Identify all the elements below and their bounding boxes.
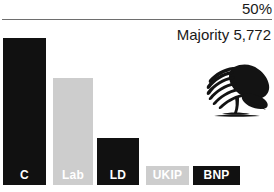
bar-group-lab[interactable]: Lab: [53, 78, 93, 185]
bar-label-c: C: [3, 166, 46, 185]
bar-label-bnp: BNP: [193, 166, 240, 185]
bar-c: [3, 38, 46, 185]
bar-label-ld: LD: [97, 166, 139, 185]
bars-area: C Lab LD UKIP BNP: [0, 0, 274, 192]
bar-group-bnp[interactable]: BNP: [193, 166, 240, 185]
bar-group-ld[interactable]: LD: [97, 138, 139, 185]
bar-group-ukip[interactable]: UKIP: [146, 166, 189, 185]
bar-label-ukip: UKIP: [146, 166, 189, 185]
bar-label-lab: Lab: [53, 166, 93, 185]
bar-group-c[interactable]: C: [3, 38, 46, 185]
election-result-bar-chart: 50% Majority 5,772: [0, 0, 274, 192]
